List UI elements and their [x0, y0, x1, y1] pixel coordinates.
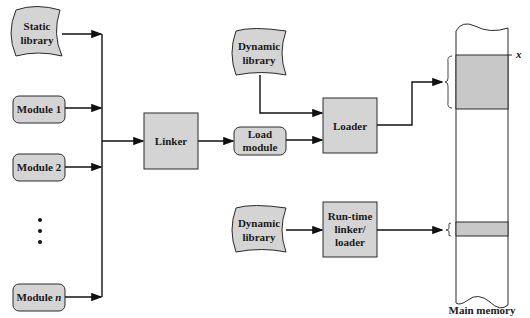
dynamic-library-bottom-label-1: Dynamic — [238, 217, 280, 229]
runtime-label-2: linker/ — [334, 223, 366, 235]
input-bus — [62, 34, 143, 297]
module-n-node: Module n — [13, 284, 65, 311]
dynamic-library-bottom-node: Dynamic library — [232, 206, 286, 253]
static-library-label-2: library — [21, 34, 54, 46]
ellipsis-dots — [38, 218, 42, 244]
load-module-label-1: Load — [248, 128, 272, 140]
module-n-label: Module n — [17, 291, 62, 303]
brace-bottom-icon — [446, 223, 451, 236]
loader-label: Loader — [333, 120, 367, 132]
main-memory-label: Main memory — [449, 304, 516, 316]
load-module-label-2: module — [243, 141, 278, 153]
runtime-label-1: Run-time — [328, 210, 373, 222]
address-marker-x: x — [515, 48, 522, 60]
static-library-node: Static library — [11, 7, 62, 57]
main-memory: x Main memory — [445, 24, 522, 316]
linker-label: Linker — [155, 135, 188, 147]
runtime-label-3: loader — [335, 236, 365, 248]
runtime-linker-loader-node: Run-time linker/ loader — [323, 202, 377, 257]
brace-top-icon — [445, 56, 452, 108]
linker-loader-diagram: Static library Module 1 Module 2 Module … — [0, 0, 530, 318]
load-module-node: Load module — [234, 127, 286, 155]
loader-to-memory-arrow — [377, 82, 442, 125]
loaded-module-block — [456, 55, 508, 109]
dynamic-library-top-label-2: library — [243, 54, 276, 66]
dynamic-library-bottom-label-2: library — [243, 231, 276, 243]
runtime-loaded-block — [456, 222, 508, 236]
loader-node: Loader — [323, 98, 377, 153]
module-1-node: Module 1 — [13, 96, 65, 123]
static-library-label-1: Static — [24, 20, 51, 32]
module-1-label: Module 1 — [17, 103, 61, 115]
module-2-label: Module 2 — [17, 161, 62, 173]
dynamic-library-to-loader-arrow — [260, 75, 322, 113]
module-2-node: Module 2 — [13, 154, 65, 181]
dynamic-library-top-node: Dynamic library — [232, 29, 286, 76]
dynamic-library-top-label-1: Dynamic — [238, 40, 280, 52]
linker-node: Linker — [144, 113, 198, 169]
